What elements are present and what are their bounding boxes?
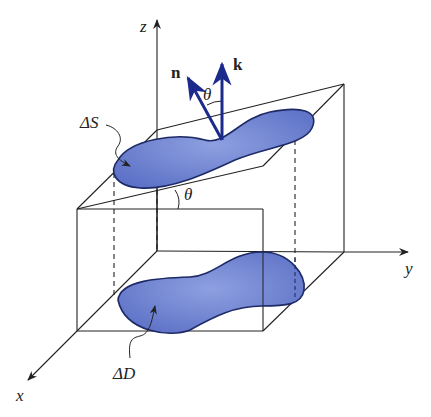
theta-label-vectors: θ — [203, 86, 211, 103]
diagram-canvas — [0, 0, 431, 417]
axes — [28, 20, 408, 380]
delta-d-label: ΔD — [113, 365, 135, 382]
projection-dD — [118, 252, 304, 333]
vector-n-label: n — [171, 64, 180, 81]
y-axis-label: y — [405, 260, 413, 277]
z-axis-label: z — [140, 18, 147, 35]
vector-k-label: k — [233, 56, 242, 73]
theta-label-plane: θ — [184, 186, 192, 203]
surface-patch-dS — [114, 109, 314, 188]
delta-s-label: ΔS — [80, 114, 98, 131]
x-axis-label: x — [16, 387, 24, 404]
angle-arc-plane — [175, 190, 179, 209]
x-axis — [28, 331, 77, 380]
surface-projection-diagram: z y x n k θ θ ΔS ΔD — [0, 0, 431, 417]
